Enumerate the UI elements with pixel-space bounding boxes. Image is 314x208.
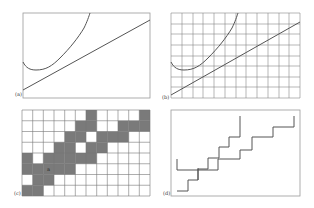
panel-label-d: (d) [163,190,170,196]
panel-d-graphic [0,0,314,208]
panel-d: (d) [0,0,314,208]
